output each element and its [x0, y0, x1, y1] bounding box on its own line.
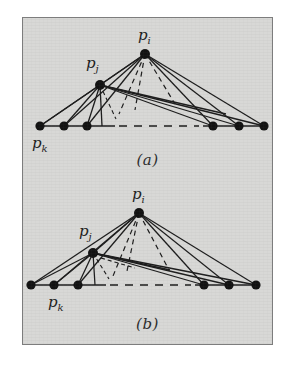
- node-pk: [26, 280, 35, 289]
- figure-root: pi pj pk (a): [0, 0, 298, 371]
- label-pi-base: p: [138, 26, 148, 44]
- node-baseline-right-1: [208, 121, 217, 130]
- panel-b: pi pj pk (b): [23, 178, 272, 345]
- label-pk-base: p: [32, 134, 42, 152]
- panel-b-caption: (b): [23, 315, 272, 333]
- label-pi-sub: i: [142, 194, 145, 205]
- node-baseline-right-2: [224, 280, 233, 289]
- label-pi: pi: [138, 26, 151, 46]
- node-baseline-right-3: [251, 280, 260, 289]
- middle-edges-right: [93, 253, 256, 285]
- node-pi: [140, 49, 150, 59]
- node-pi: [134, 208, 144, 218]
- label-pj: pj: [79, 222, 92, 242]
- node-baseline-left-3: [82, 121, 91, 130]
- panel-a-caption: (a): [23, 151, 272, 169]
- label-pi-sub: i: [148, 35, 151, 46]
- label-pi: pi: [132, 185, 145, 205]
- node-baseline-right-1: [199, 280, 208, 289]
- label-pk: pk: [48, 293, 64, 313]
- node-pj: [88, 248, 98, 258]
- label-pj-base: p: [86, 54, 96, 72]
- label-pk-sub: k: [58, 302, 64, 313]
- figure-frame: pi pj pk (a): [22, 17, 273, 345]
- label-pj-base: p: [79, 222, 89, 240]
- middle-edges-right: [100, 85, 264, 126]
- node-baseline-right-2: [234, 121, 243, 130]
- label-pi-base: p: [132, 185, 142, 203]
- node-pj: [95, 80, 105, 90]
- label-pj: pj: [86, 54, 99, 74]
- label-pk-base: p: [48, 293, 58, 311]
- node-baseline-left-2: [49, 280, 58, 289]
- apex-edges-right: [139, 213, 256, 285]
- node-baseline-right-3: [259, 121, 268, 130]
- node-baseline-left-3: [73, 280, 82, 289]
- node-baseline-left-2: [59, 121, 68, 130]
- panel-a: pi pj pk (a): [23, 18, 272, 178]
- node-pk: [35, 121, 44, 130]
